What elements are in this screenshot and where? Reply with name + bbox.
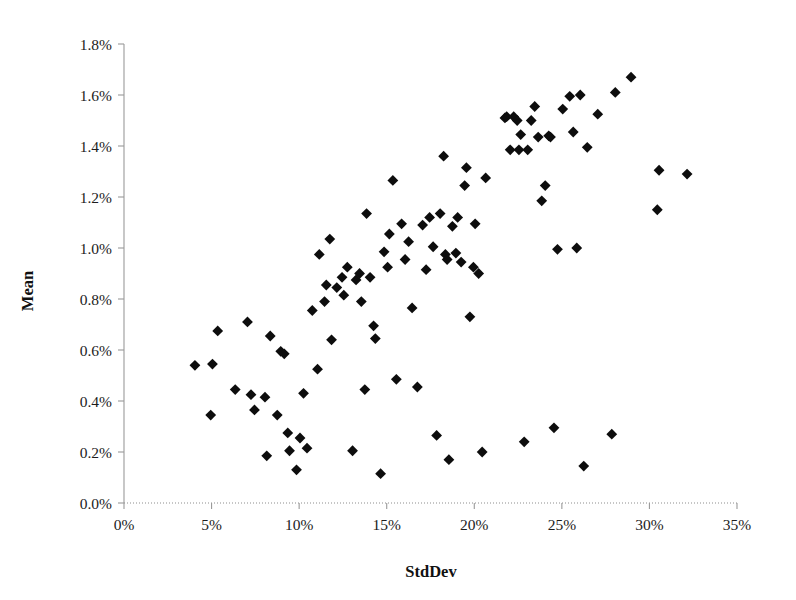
y-tick-label: 1.6% xyxy=(80,87,112,104)
y-tick-label: 0.0% xyxy=(80,495,112,512)
y-axis-title: Mean xyxy=(18,271,37,311)
y-tick-label: 1.8% xyxy=(80,36,112,53)
x-tick-label: 20% xyxy=(460,516,489,533)
y-tick-label: 1.4% xyxy=(80,138,112,155)
x-tick-label: 5% xyxy=(201,516,222,533)
y-tick-label: 0.6% xyxy=(80,342,112,359)
chart-svg: 0.0%0.2%0.4%0.6%0.8%1.0%1.2%1.4%1.6%1.8%… xyxy=(0,0,796,600)
chart-background xyxy=(0,0,796,600)
x-tick-label: 30% xyxy=(635,516,664,533)
x-axis-title: StdDev xyxy=(405,562,457,581)
y-tick-label: 1.2% xyxy=(80,189,112,206)
y-tick-label: 0.2% xyxy=(80,444,112,461)
x-tick-label: 15% xyxy=(373,516,402,533)
x-tick-label: 0% xyxy=(114,516,135,533)
x-tick-label: 25% xyxy=(548,516,577,533)
scatter-chart-figure: 0.0%0.2%0.4%0.6%0.8%1.0%1.2%1.4%1.6%1.8%… xyxy=(0,0,796,600)
y-tick-label: 0.4% xyxy=(80,393,112,410)
x-tick-label: 10% xyxy=(285,516,314,533)
x-tick-label: 35% xyxy=(723,516,752,533)
y-tick-label: 0.8% xyxy=(80,291,112,308)
y-tick-label: 1.0% xyxy=(80,240,112,257)
